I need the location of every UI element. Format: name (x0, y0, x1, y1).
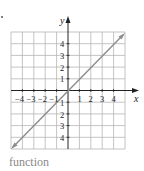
bullet-dot (1, 16, 3, 18)
x-axis-label: x (133, 93, 139, 104)
y-tick-label: 1 (60, 74, 64, 84)
y-axis-arrow-icon (66, 16, 71, 23)
x-tick-label: −1 (50, 94, 59, 104)
x-tick-label: −4 (15, 94, 25, 104)
y-tick-label: 3 (60, 51, 64, 61)
x-tick-label: 3 (100, 94, 104, 104)
x-tick-label: 1 (78, 94, 82, 104)
y-tick-label: 1 (60, 98, 64, 108)
y-tick-label: 3 (60, 121, 64, 131)
y-axis-label: y (59, 15, 65, 26)
graph: y x −4 −3 −2 −1 1 2 3 4 4 3 2 1 1 2 3 4 (0, 0, 144, 171)
x-tick-label: −2 (38, 94, 47, 104)
caption: function (9, 155, 49, 170)
x-tick-label: 2 (89, 94, 93, 104)
x-tick-label: −3 (27, 94, 36, 104)
y-tick-label: 4 (60, 133, 65, 143)
y-tick-label: 2 (60, 63, 64, 73)
y-tick-label: 2 (60, 110, 64, 120)
